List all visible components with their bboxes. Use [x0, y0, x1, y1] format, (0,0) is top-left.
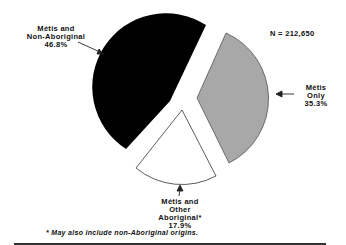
label-metis-only: Métis Only 35.3%	[298, 84, 334, 108]
label-percent: 46.8%	[26, 41, 86, 49]
label-metis-non-aboriginal: Métis and Non-Aboriginal 46.8%	[26, 25, 86, 49]
arrow-head-icon	[276, 91, 282, 97]
arrow-head-icon	[177, 185, 183, 191]
slice-metis-only	[197, 33, 269, 163]
footnote: * May also include non-Aboriginal origin…	[46, 229, 198, 236]
sample-size: N = 212,650	[270, 29, 314, 38]
label-metis-other-aboriginal: Métis and Other Aboriginal* 17.9%	[152, 198, 208, 230]
label-percent: 35.3%	[298, 100, 334, 108]
